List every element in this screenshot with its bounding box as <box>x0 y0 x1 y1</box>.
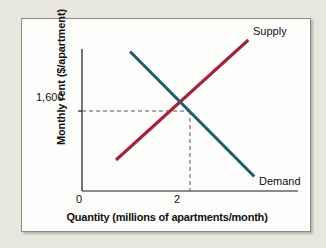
figure-root: Monthly rent ($/apartment) Quantity (mil… <box>0 0 326 248</box>
demand-curve-label: Demand <box>259 175 301 187</box>
chart-panel: Monthly rent ($/apartment) Quantity (mil… <box>21 18 311 232</box>
y-tick-label-1600: 1,600 <box>36 91 64 103</box>
supply-curve-label: Supply <box>253 25 287 37</box>
x-axis-title: Quantity (millions of apartments/month) <box>22 211 312 223</box>
y-axis-title: Monthly rent ($/apartment) <box>55 2 67 152</box>
x-tick-label-2: 2 <box>174 193 180 205</box>
x-tick-label-0: 0 <box>76 193 82 205</box>
demand-curve <box>130 52 254 177</box>
